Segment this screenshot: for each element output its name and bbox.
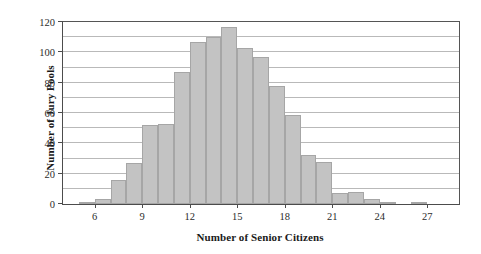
x-axis-tick (95, 204, 96, 208)
x-axis-tick-label: 27 (422, 211, 433, 222)
histogram-bar (348, 192, 364, 204)
histogram-bar (190, 42, 206, 204)
x-axis-tick (237, 204, 238, 208)
histogram-bar (221, 27, 237, 204)
histogram-bar (380, 202, 396, 204)
x-axis-title: Number of Senior Citizens (60, 231, 460, 243)
histogram-bar (301, 155, 317, 204)
y-axis-tick-label: 60 (45, 108, 56, 119)
y-axis-tick-label: 0 (50, 199, 55, 210)
x-axis-tick (380, 204, 381, 208)
x-axis-tick (332, 204, 333, 208)
x-axis-tick-label: 6 (92, 211, 97, 222)
histogram-bar (269, 86, 285, 204)
histogram-figure: Number of Jury Pools 020406080100120 691… (0, 0, 481, 254)
histogram-bar (95, 199, 111, 204)
histogram-bar (411, 202, 427, 204)
x-axis-tick (285, 204, 286, 208)
histogram-bar (79, 202, 95, 204)
histogram-bar (206, 37, 222, 204)
y-axis-tick-label: 80 (45, 77, 56, 88)
x-axis-tick (190, 204, 191, 208)
histogram-bar (174, 72, 190, 204)
y-axis-tick-label: 120 (39, 17, 55, 28)
x-axis-tick-label: 21 (327, 211, 338, 222)
histogram-bar (253, 57, 269, 204)
histogram-bar (237, 48, 253, 204)
histogram-bar (285, 115, 301, 204)
histogram-bar (364, 199, 380, 204)
plot-area: 020406080100120 69121518212427 (62, 21, 460, 205)
histogram-bar (111, 180, 127, 204)
bars-group (63, 22, 459, 204)
x-axis-tick-label: 18 (280, 211, 291, 222)
x-axis-tick (142, 204, 143, 208)
x-axis-tick-label: 15 (232, 211, 243, 222)
x-axis-tick-label: 24 (375, 211, 386, 222)
y-axis-tick-label: 40 (45, 138, 56, 149)
histogram-bar (126, 163, 142, 204)
x-axis-tick-label: 12 (184, 211, 195, 222)
y-axis-tick-label: 100 (39, 47, 55, 58)
histogram-bar (332, 193, 348, 204)
histogram-bar (316, 162, 332, 204)
histogram-bar (142, 125, 158, 204)
histogram-bar (158, 124, 174, 204)
y-axis-tick-label: 20 (45, 168, 56, 179)
x-axis-tick-label: 9 (140, 211, 145, 222)
x-axis-tick (427, 204, 428, 208)
